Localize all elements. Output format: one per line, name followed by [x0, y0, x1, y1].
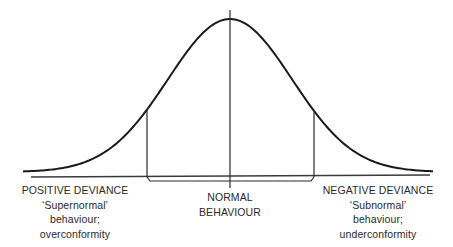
- positive-deviance-conformity: overconformity: [0, 227, 150, 242]
- negative-deviance-title: NEGATIVE DEVIANCE: [310, 183, 446, 198]
- negative-deviance-label: NEGATIVE DEVIANCE ‘Subnormal’ behaviour;…: [310, 183, 446, 241]
- positive-deviance-label: POSITIVE DEVIANCE ‘Supernormal’ behaviou…: [0, 183, 150, 241]
- negative-deviance-behaviour: behaviour;: [310, 212, 446, 227]
- positive-deviance-subtitle: ‘Supernormal’: [0, 198, 150, 213]
- positive-deviance-behaviour: behaviour;: [0, 212, 150, 227]
- negative-deviance-conformity: underconformity: [310, 227, 446, 242]
- negative-deviance-subtitle: ‘Subnormal’: [310, 198, 446, 213]
- normal-behaviour-label: NORMAL BEHAVIOUR: [180, 190, 280, 219]
- normal-behaviour-line2: BEHAVIOUR: [180, 205, 280, 220]
- positive-deviance-title: POSITIVE DEVIANCE: [0, 183, 150, 198]
- normal-distribution-curve: [23, 19, 433, 171]
- normal-behaviour-line1: NORMAL: [180, 190, 280, 205]
